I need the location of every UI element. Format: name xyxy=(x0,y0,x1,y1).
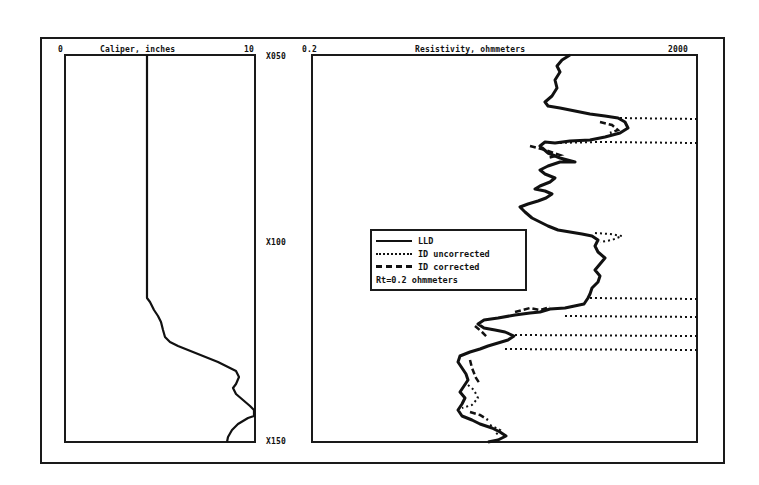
legend-item-id-uncorrected: ID uncorrected xyxy=(376,247,521,260)
dashed-line-swatch xyxy=(376,265,412,268)
legend-note: Rt=0.2 ohmmeters xyxy=(376,273,521,286)
dotted-line-swatch xyxy=(376,253,412,255)
solid-line-swatch xyxy=(376,240,412,242)
legend-label: LLD xyxy=(418,236,433,246)
legend: LLD ID uncorrected ID corrected Rt=0.2 o… xyxy=(370,229,527,291)
legend-label: ID uncorrected xyxy=(418,249,490,259)
legend-item-lld: LLD xyxy=(376,234,521,247)
caliper-track-border xyxy=(65,55,255,442)
legend-item-id-corrected: ID corrected xyxy=(376,260,521,273)
caliper-curve xyxy=(147,55,254,442)
legend-label: ID corrected xyxy=(418,262,479,272)
